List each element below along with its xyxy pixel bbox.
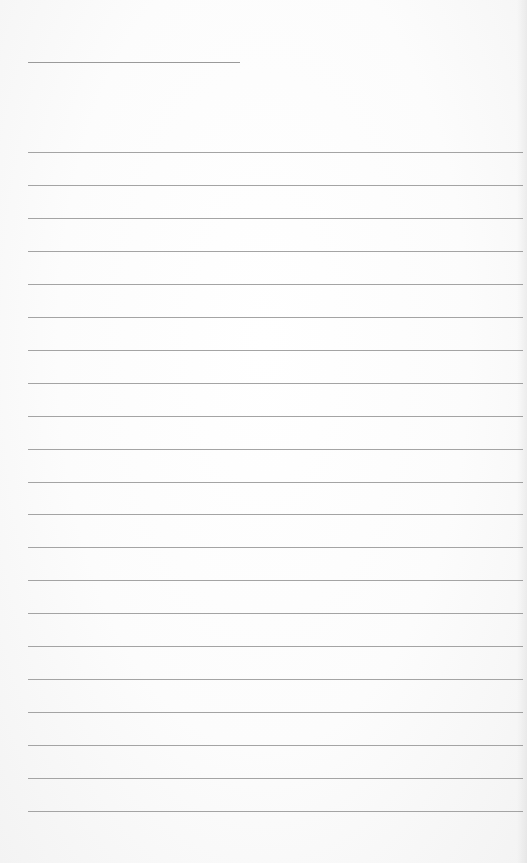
ruled-line xyxy=(28,811,523,812)
ruled-line xyxy=(28,745,523,746)
ruled-line xyxy=(28,317,523,318)
ruled-line xyxy=(28,679,523,680)
ruled-line xyxy=(28,218,523,219)
ruled-line xyxy=(28,580,523,581)
ruled-line xyxy=(28,712,523,713)
ruled-line xyxy=(28,613,523,614)
ruled-line xyxy=(28,350,523,351)
ruled-line xyxy=(28,482,523,483)
ruled-line xyxy=(28,284,523,285)
ruled-line xyxy=(28,185,523,186)
ruled-line xyxy=(28,547,523,548)
ruled-line xyxy=(28,514,523,515)
ruled-line xyxy=(28,383,523,384)
ruled-line xyxy=(28,778,523,779)
ruled-line xyxy=(28,152,523,153)
lined-paper-sheet xyxy=(0,0,527,863)
title-line xyxy=(28,62,240,63)
ruled-line xyxy=(28,449,523,450)
ruled-line xyxy=(28,646,523,647)
ruled-line xyxy=(28,416,523,417)
ruled-line xyxy=(28,251,523,252)
